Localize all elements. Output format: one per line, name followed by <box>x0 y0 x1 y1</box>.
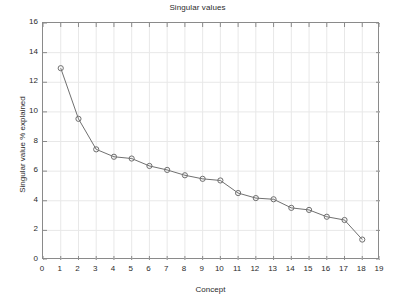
data-point-markers <box>58 66 365 243</box>
chart-figure: Singular values Singular value % explain… <box>0 0 395 304</box>
x-tick-label: 19 <box>369 265 389 273</box>
y-tick-label: 2 <box>6 225 38 233</box>
chart-title: Singular values <box>0 3 395 12</box>
y-tick-label: 4 <box>6 196 38 204</box>
plot-area <box>42 22 379 259</box>
plot-svg <box>43 23 380 260</box>
y-tick-label: 6 <box>6 166 38 174</box>
y-gridlines <box>43 53 380 231</box>
data-line <box>61 68 363 239</box>
y-tick-label: 10 <box>6 107 38 115</box>
y-tick-label: 12 <box>6 77 38 85</box>
x-axis-label: Concept <box>42 285 379 294</box>
y-tick-label: 16 <box>6 18 38 26</box>
y-tick-label: 8 <box>6 137 38 145</box>
y-tick-label: 14 <box>6 48 38 56</box>
y-tick-label: 0 <box>6 255 38 263</box>
